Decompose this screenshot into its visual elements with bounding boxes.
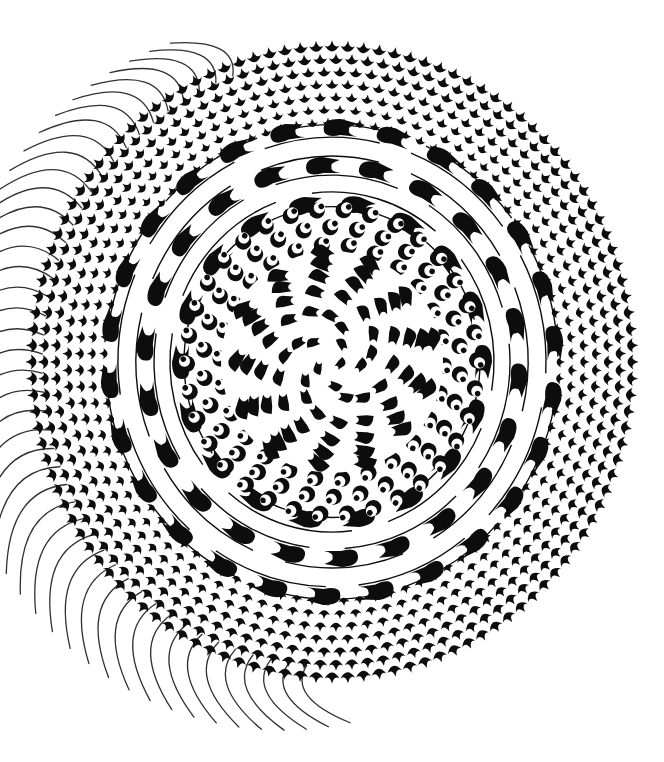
- marbling-artwork: [0, 0, 664, 762]
- artwork-canvas: [0, 0, 664, 762]
